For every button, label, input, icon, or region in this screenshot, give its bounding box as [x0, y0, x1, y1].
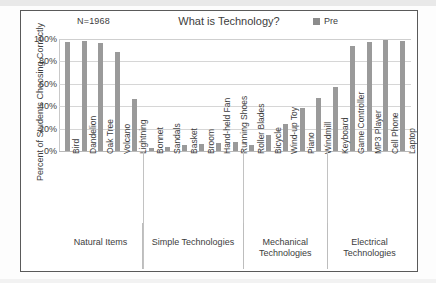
- bar-bird[interactable]: [65, 42, 70, 151]
- bar-roller-blades[interactable]: [249, 145, 254, 151]
- bar-dandelion[interactable]: [82, 41, 87, 151]
- scan-artifact-top: [0, 0, 436, 6]
- bar-windmill[interactable]: [316, 98, 321, 151]
- group-label-1: Simple Technologies: [152, 237, 234, 248]
- group-natural-items: Natural Items: [59, 223, 142, 269]
- bar-lightning[interactable]: [132, 99, 137, 151]
- bar-volcano[interactable]: [115, 52, 120, 151]
- bar-bonnet[interactable]: [149, 148, 154, 151]
- x-label-slot-11: Roller Blades: [243, 152, 260, 220]
- legend-label-pre: Pre: [324, 16, 338, 26]
- x-label-dandelion: Dandelion: [88, 116, 98, 154]
- y-tick-60: 60%: [39, 79, 57, 89]
- sample-size-annotation: N=1968: [77, 16, 110, 26]
- x-label-cell-phone: Cell Phone: [390, 112, 400, 154]
- bar-hand-held-fan[interactable]: [216, 143, 221, 151]
- bar-slot-0: [59, 39, 76, 151]
- group-label-2: MechanicalTechnologies: [259, 237, 312, 259]
- x-label-slot-19: Cell Phone: [378, 152, 395, 220]
- group-label-row: Natural ItemsSimple TechnologiesMechanic…: [59, 223, 411, 269]
- bar-sandals[interactable]: [165, 147, 170, 151]
- group-mechanical-technologies: MechanicalTechnologies: [243, 223, 327, 269]
- group-electrical-technologies: ElectricalTechnologies: [327, 223, 411, 269]
- x-label-slot-10: Running Shoes: [227, 152, 244, 220]
- x-label-wind-up-toy: Wind-up Toy: [289, 107, 299, 154]
- x-label-broom: Broom: [206, 129, 216, 154]
- bar-running-shoes[interactable]: [233, 142, 238, 151]
- x-label-keyboard: Keyboard: [340, 118, 350, 154]
- bar-basket[interactable]: [182, 145, 187, 151]
- y-tick-20: 20%: [39, 124, 57, 134]
- chart-frame: N=1968 What is Technology? Pre Percent o…: [20, 10, 418, 272]
- x-label-slot-3: Volcano: [109, 152, 126, 220]
- bar-game-controller[interactable]: [350, 46, 355, 151]
- x-label-slot-18: MP3 Player: [361, 152, 378, 220]
- bar-laptop[interactable]: [400, 41, 405, 151]
- x-label-slot-14: Piano: [294, 152, 311, 220]
- x-label-slot-7: Basket: [176, 152, 193, 220]
- x-label-slot-6: Sandals: [160, 152, 177, 220]
- group-label-0: Natural Items: [74, 237, 128, 248]
- x-label-slot-8: Broom: [193, 152, 210, 220]
- x-label-laptop: Laptop: [407, 128, 417, 154]
- x-label-slot-16: Keyboard: [327, 152, 344, 220]
- bar-cell-phone[interactable]: [383, 40, 388, 151]
- x-label-game-controller: Game Controller: [356, 92, 366, 154]
- y-axis-ticks: 100%80%60%40%20%0%: [25, 39, 57, 151]
- x-label-slot-5: Bonnet: [143, 152, 160, 220]
- bar-piano[interactable]: [300, 108, 305, 151]
- y-tick-0: 0%: [44, 146, 57, 156]
- x-label-roller-blades: Roller Blades: [256, 103, 266, 154]
- x-label-piano: Piano: [306, 132, 316, 154]
- bar-bicycle[interactable]: [266, 135, 271, 151]
- x-label-bonnet: Bonnet: [155, 127, 165, 154]
- x-label-basket: Basket: [189, 128, 199, 154]
- x-label-hand-held-fan: Hand-held Fan: [222, 98, 232, 154]
- x-label-running-shoes: Running Shoes: [239, 96, 249, 154]
- group-simple-technologies: Simple Technologies: [142, 223, 243, 269]
- y-tick-40: 40%: [39, 101, 57, 111]
- x-label-slot-9: Hand-held Fan: [210, 152, 227, 220]
- x-label-bicycle: Bicycle: [273, 127, 283, 154]
- x-label-sandals: Sandals: [172, 123, 182, 154]
- x-label-windmill: Windmill: [323, 122, 333, 154]
- bar-oak-tree[interactable]: [98, 43, 103, 151]
- y-tick-100: 100%: [34, 34, 57, 44]
- group-label-3: ElectricalTechnologies: [343, 237, 396, 259]
- chart-screenshot: N=1968 What is Technology? Pre Percent o…: [0, 0, 436, 283]
- x-axis-category-labels: BirdDandelionOak TreeVolcanoLightningBon…: [59, 152, 411, 220]
- x-label-slot-4: Lightning: [126, 152, 143, 220]
- x-label-slot-1: Dandelion: [76, 152, 93, 220]
- x-label-slot-2: Oak Tree: [93, 152, 110, 220]
- chart-title: What is Technology?: [149, 15, 309, 27]
- x-label-slot-15: Windmill: [310, 152, 327, 220]
- bar-broom[interactable]: [199, 144, 204, 151]
- chart-legend: Pre: [313, 16, 338, 26]
- x-label-slot-0: Bird: [59, 152, 76, 220]
- y-tick-80: 80%: [39, 56, 57, 66]
- x-label-mp3-player: MP3 Player: [373, 110, 383, 154]
- legend-swatch-pre: [313, 18, 320, 25]
- scan-artifact-bottom: [0, 279, 436, 283]
- x-label-volcano: Volcano: [122, 124, 132, 154]
- x-label-slot-20: Laptop: [394, 152, 411, 220]
- x-label-oak-tree: Oak Tree: [105, 119, 115, 154]
- bar-keyboard[interactable]: [333, 87, 338, 151]
- x-label-slot-17: Game Controller: [344, 152, 361, 220]
- x-label-slot-12: Bicycle: [260, 152, 277, 220]
- bar-wind-up-toy[interactable]: [283, 124, 288, 151]
- x-label-slot-13: Wind-up Toy: [277, 152, 294, 220]
- bar-mp3-player[interactable]: [367, 42, 372, 151]
- x-label-lightning: Lightning: [138, 119, 148, 154]
- chart-header: N=1968 What is Technology? Pre: [21, 15, 419, 33]
